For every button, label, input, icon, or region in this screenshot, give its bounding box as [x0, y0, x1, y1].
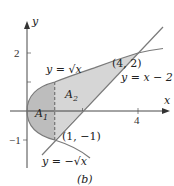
curve-label-lower-root: y = −√x [41, 155, 88, 168]
curve-label-upper-root: y = √x [45, 63, 82, 76]
y-axis-arrow-icon [24, 21, 30, 29]
region-label-a1-main: A [34, 107, 43, 120]
x-tick-label-4: 4 [134, 114, 140, 126]
y-tick-label-neg1: −1 [9, 134, 21, 146]
region-diagram: x y 4 2 −1 y = √x y = −√x y = x − 2 (4, … [0, 0, 174, 186]
region-label-a2-sub: 2 [72, 94, 78, 103]
region-label-a1-sub: 1 [43, 113, 48, 122]
curve-label-line: y = x − 2 [120, 71, 173, 84]
y-axis-label: y [31, 15, 39, 28]
point-label-1-neg1: (1, −1) [62, 130, 101, 143]
x-axis-arrow-icon [162, 108, 170, 114]
x-axis-label: x [164, 94, 171, 107]
region-label-a2-main: A [64, 88, 73, 101]
figure-caption: (b) [77, 173, 93, 186]
point-label-4-2: (4, 2) [112, 57, 142, 70]
y-tick-label-2: 2 [14, 47, 20, 59]
